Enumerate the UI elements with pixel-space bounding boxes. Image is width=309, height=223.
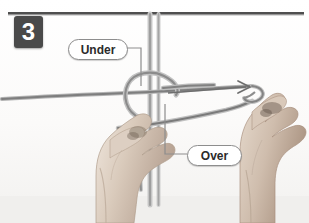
scene-illustration bbox=[0, 0, 309, 223]
callout-under: Under bbox=[68, 39, 128, 60]
photo-scene bbox=[0, 0, 309, 223]
callout-over: Over bbox=[187, 145, 242, 166]
callout-under-label: Under bbox=[81, 44, 116, 56]
callout-over-label: Over bbox=[201, 150, 228, 162]
top-rule-shadow bbox=[8, 15, 304, 16]
top-rule bbox=[8, 12, 304, 15]
step-number-badge: 3 bbox=[14, 16, 43, 48]
step-number-text: 3 bbox=[22, 20, 35, 44]
instruction-figure: 3 Under Over bbox=[0, 0, 309, 223]
